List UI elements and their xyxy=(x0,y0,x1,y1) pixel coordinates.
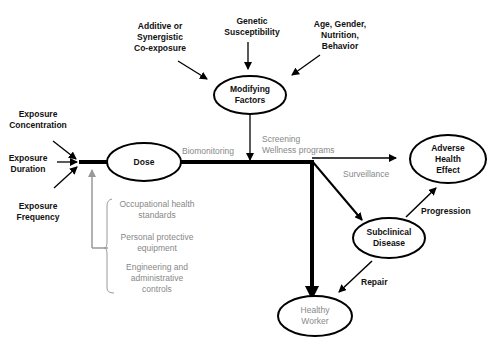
repair-label: Repair xyxy=(361,277,387,288)
adverse-health-effect-node: Adverse Health Effect xyxy=(410,136,486,182)
progression-label: Progression xyxy=(421,206,471,217)
occupational-standards-label: Occupational health standards xyxy=(112,199,202,221)
dose-node: Dose xyxy=(107,150,181,174)
subclinical-disease-node: Subclinical Disease xyxy=(353,222,425,254)
surveillance-label: Surveillance xyxy=(343,169,389,180)
ppe-label: Personal protective equipment xyxy=(112,232,202,254)
exposure-concentration-label: Exposure Concentration xyxy=(8,109,68,131)
genetic-susceptibility-label: Genetic Susceptibility xyxy=(212,16,292,38)
modifying-factors-node: Modifying Factors xyxy=(214,80,286,110)
coexposure-label: Additive or Synergistic Co-exposure xyxy=(130,21,190,54)
screening-label: Screening Wellness programs xyxy=(262,134,335,156)
biomonitoring-label: Biomonitoring xyxy=(182,146,234,157)
exposure-duration-label: Exposure Duration xyxy=(6,153,50,175)
healthy-worker-node: Healthy Worker xyxy=(278,300,352,332)
engineering-controls-label: Engineering and administrative controls xyxy=(112,262,202,295)
age-gender-label: Age, Gender, Nutrition, Behavior xyxy=(305,19,375,52)
exposure-frequency-label: Exposure Frequency xyxy=(14,201,62,223)
